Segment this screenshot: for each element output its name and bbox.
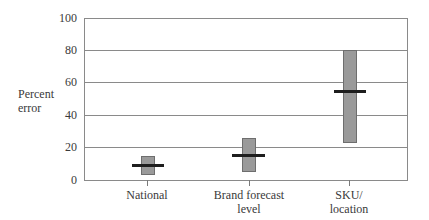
ytick-60: 60 [53,75,77,90]
gridline-40 [84,115,408,116]
box-chart: Percent error 100 80 60 40 20 0 National… [0,0,429,220]
y-axis-label-line1: Percent [18,87,54,101]
xlabel-national-line1: National [92,188,202,202]
y-axis-label-line2: error [18,101,54,115]
y-axis-label: Percent error [18,87,54,115]
ytick-80: 80 [53,43,77,58]
xlabel-brand-line2: level [194,202,304,216]
xlabel-sku-line1: SKU/ [294,188,404,202]
xlabel-brand: Brand forecast level [194,188,304,216]
xtick-national [147,180,148,186]
ytick-40: 40 [53,108,77,123]
xlabel-sku-line2: location [294,202,404,216]
ytick-100: 100 [53,11,77,26]
range-box-sku [343,50,357,143]
xlabel-brand-line1: Brand forecast [194,188,304,202]
ytick-0: 0 [53,173,77,188]
median-line-brand [232,154,265,157]
xtick-brand [249,180,250,186]
median-line-national [132,164,164,167]
xlabel-sku: SKU/ location [294,188,404,216]
gridline-80 [84,50,408,51]
ytick-20: 20 [53,140,77,155]
xlabel-national: National [92,188,202,202]
xtick-sku [349,180,350,186]
gridline-60 [84,82,408,83]
median-line-sku [334,90,366,93]
